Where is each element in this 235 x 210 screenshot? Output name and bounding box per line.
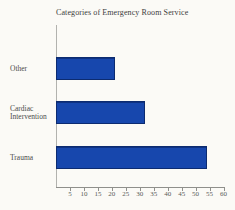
bar-trauma [56,146,207,169]
x-tick-label-15: 15 [94,190,101,198]
x-tick-label-10: 10 [80,190,87,198]
bar-cardiac-intervention [56,101,145,124]
x-tick-label-55: 55 [206,190,213,198]
x-tick-label-30: 30 [136,190,143,198]
category-label-other: Other [10,64,56,73]
chart-title: Categories of Emergency Room Service [56,8,188,17]
x-tick-label-50: 50 [192,190,199,198]
x-tick-label-20: 20 [108,190,115,198]
x-tick-label-5: 5 [68,190,72,198]
category-label-cardiac-intervention: Cardiac Intervention [10,104,56,121]
bar-other [56,57,115,80]
x-tick-label-60: 60 [220,190,227,198]
x-tick-label-35: 35 [150,190,157,198]
x-tick-label-40: 40 [164,190,171,198]
category-label-trauma: Trauma [10,153,56,162]
x-tick-label-25: 25 [122,190,129,198]
x-tick-label-45: 45 [178,190,185,198]
bar-chart: Categories of Emergency Room Service Oth… [0,0,235,210]
